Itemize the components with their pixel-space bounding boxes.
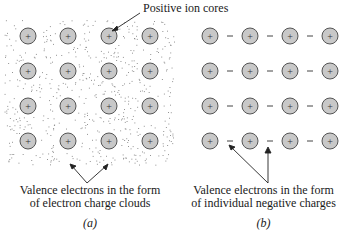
plus-sign: + — [65, 31, 71, 42]
plus-sign: + — [287, 101, 293, 112]
plus-sign: + — [25, 66, 31, 77]
plus-sign: + — [327, 31, 333, 42]
plus-sign: + — [106, 136, 112, 147]
plus-sign: + — [25, 101, 31, 112]
plus-sign: + — [106, 31, 112, 42]
plus-sign: + — [207, 66, 213, 77]
panel-a-caption-line2: of electron charge clouds — [0, 197, 180, 210]
plus-sign: + — [106, 66, 112, 77]
plus-sign: + — [287, 66, 293, 77]
panel-b-tag: (b) — [180, 217, 347, 230]
plus-sign: + — [327, 136, 333, 147]
panel-b-caption-line2: of individual negative charges — [180, 197, 347, 210]
plus-sign: + — [287, 136, 293, 147]
plus-sign: + — [247, 31, 253, 42]
plus-sign: + — [147, 66, 153, 77]
plus-sign: + — [247, 136, 253, 147]
plus-sign: + — [147, 136, 153, 147]
plus-sign: + — [65, 136, 71, 147]
plus-sign: + — [247, 101, 253, 112]
arrow-positive-ion-cores — [114, 13, 140, 30]
panel-b-ion-cores: ++++++++++++++++ — [202, 28, 338, 149]
plus-sign: + — [327, 66, 333, 77]
arrow-cloud-right — [87, 166, 106, 183]
plus-sign: + — [65, 101, 71, 112]
arrow-electron-left — [231, 147, 268, 183]
plus-sign: + — [207, 101, 213, 112]
panel-b-electrons — [227, 36, 313, 141]
arrows — [70, 13, 271, 183]
plus-sign: + — [287, 31, 293, 42]
label-positive-ion-cores: Positive ion cores — [143, 2, 228, 15]
plus-sign: + — [65, 66, 71, 77]
panel-a-tag: (a) — [0, 217, 180, 230]
plus-sign: + — [106, 101, 112, 112]
plus-sign: + — [147, 101, 153, 112]
plus-sign: + — [25, 136, 31, 147]
plus-sign: + — [207, 31, 213, 42]
plus-sign: + — [327, 101, 333, 112]
arrow-cloud-left — [72, 166, 87, 183]
plus-sign: + — [207, 136, 213, 147]
plus-sign: + — [25, 31, 31, 42]
plus-sign: + — [147, 31, 153, 42]
plus-sign: + — [247, 66, 253, 77]
